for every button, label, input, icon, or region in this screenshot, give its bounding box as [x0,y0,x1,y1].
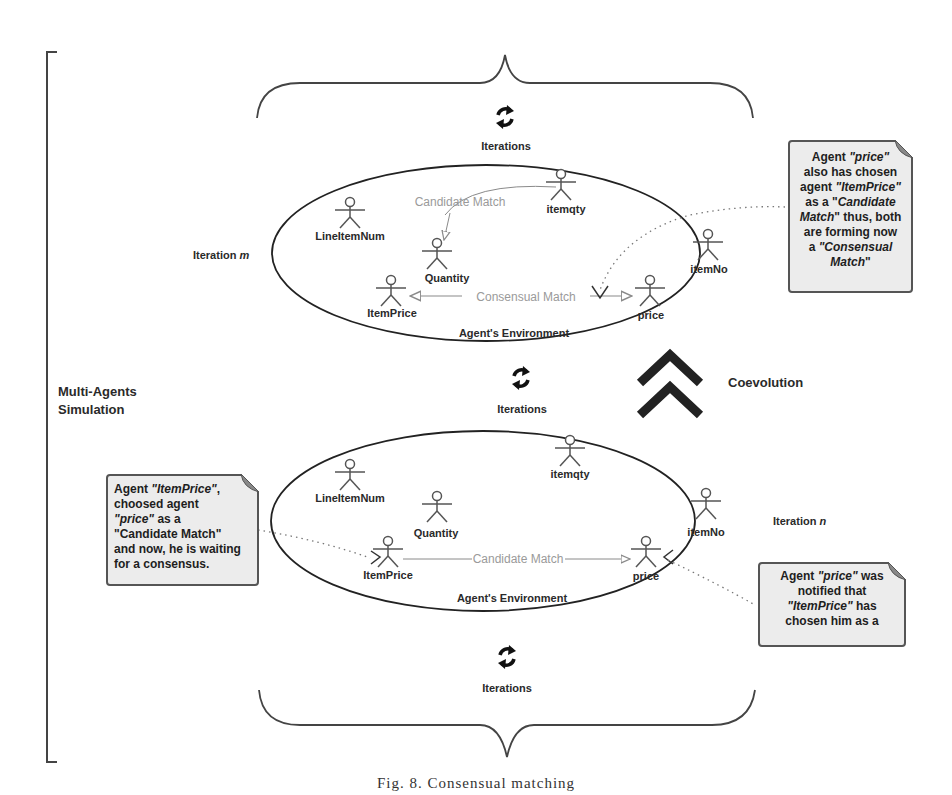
note-line: and now, he is waiting [114,542,251,557]
candidate-match-label: Candidate Match [415,195,506,209]
agent-label: itemNo [690,263,727,275]
candidate-match-label: Candidate Match [473,552,564,566]
bottom-curly-brace [259,690,755,757]
agent-label: price [633,570,659,582]
agent-label: LineItemNum [315,492,385,504]
note-line: choosed agent [114,497,251,512]
refresh-icon [512,366,530,390]
environment-ellipse-bottom [271,431,695,611]
actor-icon [335,198,365,229]
actor-icon [422,492,452,523]
actor-icon [335,460,365,491]
agent-label: itemqty [550,468,589,480]
page-fold-icon [895,140,913,158]
environment-label-top: Agent's Environment [459,327,569,339]
environment-label-bottom: Agent's Environment [457,592,567,604]
note-line: agent "ItemPrice" [796,180,905,195]
multi-agents-bracket [47,52,57,762]
note-top-right: Agent "price"also has chosenagent "ItemP… [788,140,913,293]
actor-icon [691,489,721,520]
actor-icon [546,170,576,201]
note-line: for a consensus. [114,557,251,572]
page-fold-icon [241,474,259,492]
agent-label: price [638,309,664,321]
iteration-n-label: Iteration n [773,515,826,527]
agent-label: LineItemNum [315,230,385,242]
agent-label: ItemPrice [367,307,417,319]
diagram-canvas [0,0,952,795]
agent-label: Quantity [414,527,459,539]
refresh-icon [498,645,516,669]
coevolution-label: Coevolution [728,375,803,390]
agent-label: itemNo [687,526,724,538]
refresh-icon [496,105,514,129]
note-line: are forming now [796,225,905,240]
agent-label: Quantity [425,272,470,284]
note-line: a "Consensual [796,240,905,255]
note-line: as a "Candidate [796,195,905,210]
actor-icon [373,537,403,568]
note-line: "Candidate Match" [114,527,251,542]
consensual-match-label: Consensual Match [476,290,575,304]
agent-label: itemqty [546,203,585,215]
note-line: Match" [796,255,905,270]
actor-icon [376,276,406,307]
actor-icon [555,436,585,467]
note-bottom-right: Agent "price" wasnotified that"ItemPrice… [758,562,906,647]
iterations-label-bottom: Iterations [482,682,532,694]
actor-icon [631,537,661,568]
actor-icon [693,230,723,261]
multi-agents-simulation-label: Multi-Agents Simulation [58,383,137,419]
iterations-label-middle: Iterations [497,403,547,415]
note-line: Agent "price" was [766,569,898,584]
note-line: notified that [766,584,898,599]
figure-caption: Fig. 8. Consensual matching [377,775,575,792]
note-bottom-left: Agent "ItemPrice",choosed agent"price" a… [106,474,259,586]
iteration-m-label: Iteration m [193,249,249,261]
actor-icon [635,276,665,307]
actor-icon [422,239,452,270]
iterations-label-top: Iterations [481,140,531,152]
note-line: "ItemPrice" has [766,599,898,614]
note-line: Agent "price" [796,150,905,165]
note-line: also has chosen [796,165,905,180]
double-chevron-up-icon [640,355,700,415]
note-line: chosen him as a [766,614,898,629]
agent-label: ItemPrice [363,569,413,581]
note-line: "price" as a [114,512,251,527]
note-line: Agent "ItemPrice", [114,482,251,497]
note-line: Match" thus, both [796,210,905,225]
page-fold-icon [888,562,906,580]
